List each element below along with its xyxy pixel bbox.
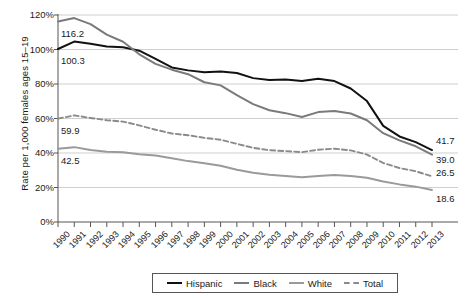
legend-item-total[interactable]: Total xyxy=(344,278,383,289)
legend-swatch-icon xyxy=(344,282,359,284)
legend-label: Black xyxy=(253,278,276,289)
series-line-total xyxy=(58,115,432,176)
legend-swatch-icon xyxy=(289,282,304,284)
legend-item-white[interactable]: White xyxy=(289,278,332,289)
series-line-hispanic xyxy=(58,42,432,151)
legend-label: Total xyxy=(363,278,383,289)
y-tick-label: 40% xyxy=(18,148,54,158)
teen-birth-rate-line-chart: Rate per 1,000 females ages 15–19 0%20%4… xyxy=(0,0,472,298)
legend-label: Hispanic xyxy=(186,278,222,289)
series-line-black xyxy=(58,18,432,155)
y-tick-label: 120% xyxy=(18,10,54,20)
legend-item-hispanic[interactable]: Hispanic xyxy=(167,278,222,289)
start-value-label-hispanic: 100.3 xyxy=(61,56,85,66)
y-tick-label: 0% xyxy=(18,217,54,227)
y-tick-label: 80% xyxy=(18,79,54,89)
end-value-label-white: 18.6 xyxy=(436,194,455,204)
legend-label: White xyxy=(308,278,332,289)
start-value-label-total: 59.9 xyxy=(61,126,80,136)
end-value-label-total: 26.5 xyxy=(436,168,455,178)
y-tick-label: 60% xyxy=(18,114,54,124)
start-value-label-black: 116.2 xyxy=(61,29,84,39)
chart-legend: HispanicBlackWhiteTotal xyxy=(152,273,398,293)
legend-item-black[interactable]: Black xyxy=(234,278,276,289)
data-series xyxy=(58,18,432,190)
legend-swatch-icon xyxy=(234,282,249,284)
end-value-label-hispanic: 41.7 xyxy=(436,136,455,146)
end-value-label-black: 39.0 xyxy=(436,155,455,165)
series-line-white xyxy=(58,147,432,190)
y-tick-label: 100% xyxy=(18,45,54,55)
start-value-label-white: 42.5 xyxy=(61,156,80,166)
y-tick-label: 20% xyxy=(18,183,54,193)
x-axis-ticks xyxy=(58,222,432,227)
legend-swatch-icon xyxy=(167,282,182,284)
gridlines xyxy=(58,15,458,188)
